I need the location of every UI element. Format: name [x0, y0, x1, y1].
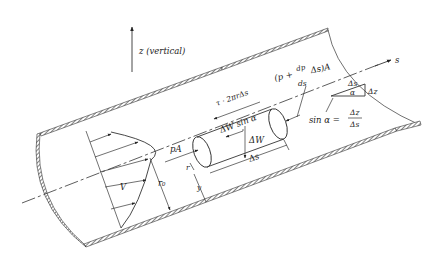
upstream-pressure-label: pA — [170, 144, 182, 154]
pipe-right-end-curve — [328, 30, 420, 125]
pipe-right-end-wall — [395, 121, 421, 131]
element-right-face — [265, 106, 291, 142]
pipe-flow-diagram: z (vertical) s V r₀ τ · 2πrΔs ( — [0, 0, 443, 258]
pipe-bottom-wall — [84, 128, 397, 247]
velocity-arrow-icon — [95, 142, 138, 157]
profile-base-line — [86, 131, 121, 228]
dimension-tick — [284, 140, 289, 150]
velocity-arrow-icon — [111, 203, 135, 209]
element-bottom-edge — [207, 139, 284, 167]
sin-lhs: sin α = — [309, 115, 340, 125]
element-radius-label: r — [186, 163, 190, 172]
downstream-pressure-leader — [297, 86, 306, 117]
velocity-arrow-icon — [90, 134, 111, 142]
sin-den: Δs — [349, 120, 359, 129]
fluid-element — [189, 106, 291, 170]
shear-force-label: τ · 2πrΔs — [215, 88, 250, 108]
pipe-top-wall-far — [222, 28, 328, 70]
pipe-top-wall — [40, 67, 222, 136]
downstream-pressure-arrow-icon — [286, 115, 300, 121]
parabolic-profile-curve — [111, 132, 156, 228]
velocity-profile: V — [86, 131, 156, 228]
pipe-radius-label: r₀ — [158, 178, 166, 188]
pipe — [36, 28, 421, 247]
sin-leader — [326, 98, 333, 112]
triangle-angle-label: α — [350, 88, 355, 97]
z-axis: z (vertical) — [132, 27, 185, 72]
triangle-hyp-label: Δs — [347, 79, 357, 88]
z-axis-label: z (vertical) — [138, 46, 185, 56]
element-length-label: Δs — [246, 151, 261, 165]
element-radius-dimension — [190, 163, 194, 170]
s-axis-arrow-icon — [375, 60, 391, 66]
wall-distance-label: y — [196, 183, 202, 192]
sin-num: Δz — [349, 108, 359, 117]
slope-triangle: Δs α Δz sin α = Δz Δs — [309, 79, 377, 129]
triangle-rise-label: Δz — [367, 87, 377, 96]
weight-label: ΔW — [248, 135, 265, 145]
velocity-label: V — [120, 182, 127, 192]
pipe-left-end-section — [36, 133, 86, 247]
dp-denominator: ds — [298, 79, 307, 88]
velocity-arrow-icon — [100, 159, 148, 172]
s-axis-label: s — [395, 55, 400, 65]
